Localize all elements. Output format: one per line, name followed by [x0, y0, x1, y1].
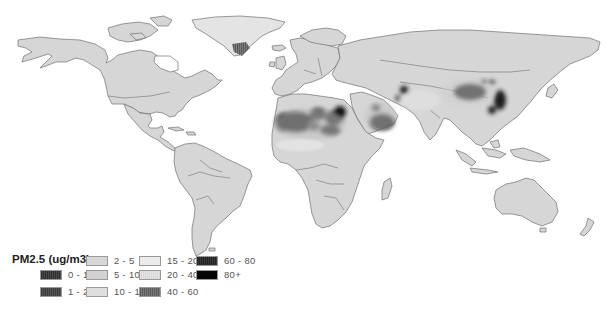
north-america [18, 37, 222, 117]
world-map [0, 0, 614, 316]
south-america [174, 143, 252, 256]
australia [494, 178, 558, 226]
